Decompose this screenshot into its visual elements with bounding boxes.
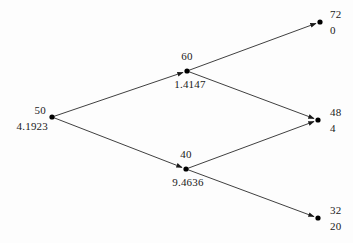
- diagram-canvas: 50 4.1923 60 1.4147 40 9.4636 72 0 48 4 …: [0, 0, 353, 243]
- node-downdown-value: 32: [330, 204, 341, 216]
- edge-root-up: [52, 72, 183, 117]
- node-down[interactable]: [183, 166, 188, 171]
- edge-root-down: [52, 117, 182, 167]
- edge-up-upup: [187, 23, 316, 71]
- node-root-value: 50: [35, 104, 46, 116]
- node-down-secondary: 9.4636: [172, 176, 203, 188]
- node-root-secondary: 4.1923: [17, 120, 48, 132]
- node-upup-secondary: 0: [330, 24, 336, 36]
- tree-graph: [0, 0, 353, 243]
- node-upup[interactable]: [317, 19, 322, 24]
- node-down-value: 40: [180, 148, 191, 160]
- node-up-value: 60: [181, 50, 192, 62]
- edge-up-updown: [187, 71, 314, 119]
- node-updown[interactable]: [315, 117, 320, 122]
- node-updown-value: 48: [330, 106, 341, 118]
- node-downdown[interactable]: [315, 215, 320, 220]
- edge-down-downdown: [186, 169, 314, 217]
- node-upup-value: 72: [330, 8, 341, 20]
- edge-down-updown: [186, 122, 314, 170]
- node-updown-secondary: 4: [330, 122, 336, 134]
- node-up-secondary: 1.4147: [174, 78, 205, 90]
- node-downdown-secondary: 20: [330, 220, 341, 232]
- node-up[interactable]: [184, 68, 189, 73]
- node-root[interactable]: [49, 114, 54, 119]
